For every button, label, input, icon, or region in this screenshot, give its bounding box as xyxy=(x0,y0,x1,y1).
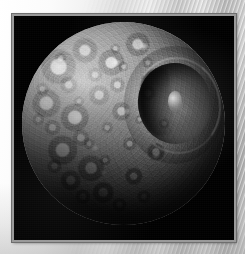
moon-container xyxy=(22,22,225,225)
image-viewer: Mimas Grayscale photograph of Saturn's h… xyxy=(0,0,245,254)
mimas-disc xyxy=(22,22,225,225)
photograph xyxy=(14,16,234,240)
limb-darkening xyxy=(22,22,225,225)
